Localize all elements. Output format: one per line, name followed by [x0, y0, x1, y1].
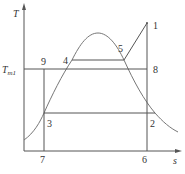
point-6-label: 6 — [142, 154, 147, 165]
x-axis-arrow-icon — [175, 149, 182, 153]
point-1-label: 1 — [153, 20, 158, 31]
point-5-label: 5 — [118, 43, 123, 54]
point-7-label: 7 — [40, 154, 45, 165]
cycle-lines — [24, 23, 155, 151]
y-axis-label: T — [13, 8, 20, 19]
point-9-label: 9 — [41, 56, 46, 67]
tm1-label: Tm1 — [2, 64, 16, 77]
ts-diagram: T s Tm1 1 2 3 4 5 6 7 8 9 — [0, 0, 185, 174]
y-axis-arrow-icon — [22, 3, 26, 10]
x-axis-label: s — [173, 155, 177, 166]
tm1-sub: m1 — [8, 69, 17, 77]
line-5-1 — [124, 23, 147, 60]
point-3-label: 3 — [47, 118, 52, 129]
point-1-marker — [146, 22, 148, 24]
point-8-label: 8 — [153, 64, 158, 75]
axes — [22, 3, 182, 153]
point-2-label: 2 — [150, 118, 155, 129]
point-4-label: 4 — [63, 55, 68, 66]
